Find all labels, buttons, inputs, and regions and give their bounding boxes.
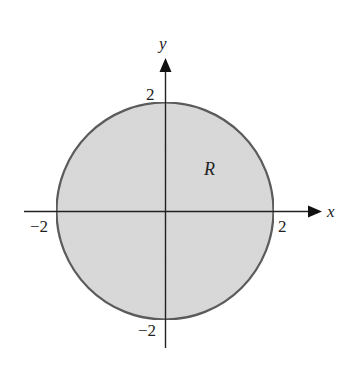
region-label: R bbox=[203, 159, 215, 179]
x-tick-2: 2 bbox=[278, 217, 287, 236]
y-tick-neg2: −2 bbox=[138, 321, 156, 340]
x-tick-neg2: −2 bbox=[30, 217, 48, 236]
x-axis-arrow-icon bbox=[308, 206, 322, 218]
y-tick-2: 2 bbox=[146, 85, 155, 104]
x-axis-label: x bbox=[326, 202, 335, 221]
y-axis-label: y bbox=[157, 34, 167, 53]
y-axis-arrow-icon bbox=[160, 58, 172, 72]
disk-region-diagram: x y 2 −2 −2 2 R bbox=[0, 0, 356, 366]
